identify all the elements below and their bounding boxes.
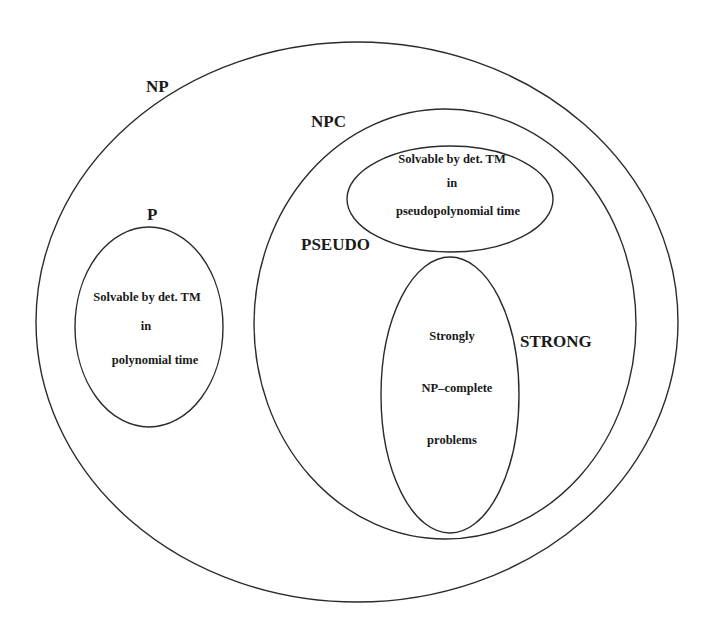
npc-label: NPC	[311, 112, 346, 131]
pseudo-text-line-1: Solvable by det. TM	[398, 152, 506, 166]
p-text-line-1: Solvable by det. TM	[93, 290, 201, 304]
strong-ellipse	[381, 257, 519, 533]
np-set: NP	[36, 42, 678, 602]
strong-text-line-2: NP–complete	[422, 381, 493, 395]
strong-label: STRONG	[520, 332, 592, 351]
pseudo-label: PSEUDO	[301, 235, 370, 254]
npc-set: NPC	[254, 109, 636, 539]
npc-ellipse	[254, 109, 636, 539]
strong-set: STRONG Strongly NP–complete problems	[381, 257, 592, 533]
pseudo-text-line-3: pseudopolynomial time	[396, 204, 520, 218]
p-set: P Solvable by det. TM in polynomial time	[75, 205, 223, 427]
np-ellipse	[36, 42, 678, 602]
pseudo-text-line-2: in	[447, 176, 457, 190]
pseudo-set: PSEUDO Solvable by det. TM in pseudopoly…	[301, 146, 553, 254]
p-text-line-3: polynomial time	[112, 353, 199, 367]
np-label: NP	[146, 77, 169, 96]
strong-text-line-3: problems	[427, 433, 477, 447]
complexity-class-diagram: NP P Solvable by det. TM in polynomial t…	[0, 0, 710, 621]
p-text-line-2: in	[141, 319, 151, 333]
strong-text-line-1: Strongly	[429, 329, 475, 343]
p-label: P	[147, 205, 157, 224]
